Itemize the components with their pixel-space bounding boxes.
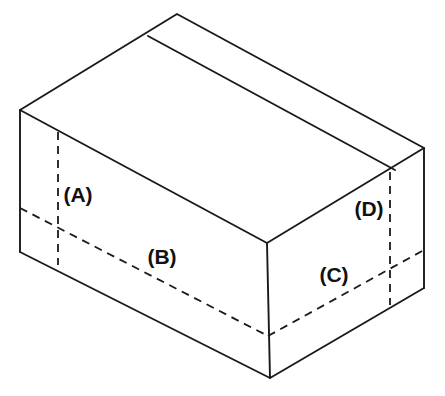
label-d: (D) bbox=[354, 197, 383, 220]
isometric-box-diagram: (A) (B) (C) (D) bbox=[0, 0, 445, 396]
label-b: (B) bbox=[147, 245, 176, 268]
label-c: (C) bbox=[319, 263, 348, 286]
box-drawing-canvas: (A) (B) (C) (D) bbox=[0, 0, 445, 396]
label-a: (A) bbox=[63, 183, 92, 206]
